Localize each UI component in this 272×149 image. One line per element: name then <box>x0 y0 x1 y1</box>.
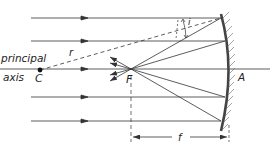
label-focal-length-f: f <box>178 132 183 143</box>
label-axis: axis <box>3 71 25 83</box>
label-center-c: C <box>35 72 43 85</box>
label-radius-r: r <box>69 47 74 58</box>
concave-mirror-diagram: principal axis C r F A i f <box>0 0 272 149</box>
label-principal: principal <box>0 52 46 64</box>
label-angle-i: i <box>188 17 191 27</box>
reflected-rays <box>110 18 225 121</box>
label-vertex-a: A <box>237 71 245 83</box>
radius-line <box>40 18 221 70</box>
label-focus-f: F <box>126 73 133 86</box>
